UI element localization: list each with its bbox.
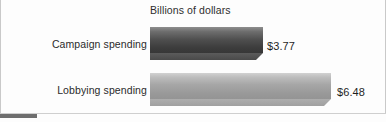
bar-gradient-campaign-spending	[150, 27, 263, 53]
bar-campaign-spending	[150, 27, 263, 60]
bar-top-face-lobbying-spending	[150, 73, 331, 99]
bar-front-face-campaign-spending	[150, 53, 263, 60]
bar-lobbying-spending	[150, 73, 331, 106]
bar-gradient-lobbying-spending	[150, 73, 331, 99]
bar-chamfer-campaign-spending	[150, 53, 263, 60]
bar-top-face-campaign-spending	[150, 27, 263, 53]
value-label-lobbying-spending: $6.48	[337, 86, 365, 98]
figure-border-left	[0, 0, 1, 114]
figure-border-bottom	[0, 113, 386, 114]
value-label-campaign-spending: $3.77	[267, 40, 295, 52]
category-label-campaign-spending: Campaign spending	[52, 38, 147, 50]
category-label-lobbying-spending: Lobbying spending	[57, 84, 147, 96]
bar-front-face-lobbying-spending	[150, 99, 331, 106]
bar-chart-figure: Billions of dollars Campaign spending $3…	[0, 0, 386, 122]
chart-title: Billions of dollars	[150, 4, 370, 16]
bar-chamfer-lobbying-spending	[150, 99, 331, 106]
bottom-left-tab	[0, 114, 37, 118]
